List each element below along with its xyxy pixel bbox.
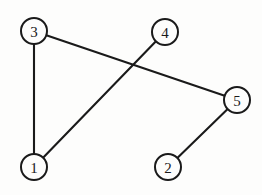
node-label-1: 1 (30, 160, 38, 176)
edge-4-1 (43, 41, 156, 157)
edge-2-5 (177, 109, 227, 158)
graph-node-4[interactable]: 4 (152, 19, 178, 45)
graph-figure: 34512 (0, 0, 262, 195)
node-label-3: 3 (30, 24, 38, 40)
node-label-4: 4 (161, 25, 169, 41)
graph-node-2[interactable]: 2 (155, 154, 181, 180)
graph-node-1[interactable]: 1 (21, 154, 47, 180)
graph-canvas: 34512 (0, 0, 262, 195)
graph-node-3[interactable]: 3 (21, 18, 47, 44)
edge-3-5 (46, 35, 224, 96)
edge-layer (34, 35, 228, 158)
node-label-2: 2 (164, 160, 172, 176)
node-label-5: 5 (233, 93, 241, 109)
node-layer: 34512 (21, 18, 250, 180)
graph-node-5[interactable]: 5 (224, 87, 250, 113)
